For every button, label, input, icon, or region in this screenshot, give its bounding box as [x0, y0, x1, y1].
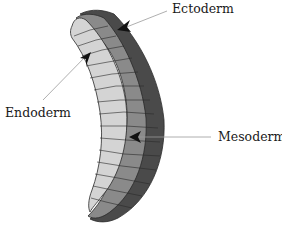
ectoderm-leader-line — [124, 11, 167, 28]
endoderm-leader-line — [43, 54, 88, 100]
endoderm-label: Endoderm — [5, 107, 71, 120]
ectoderm-label: Ectoderm — [172, 3, 234, 16]
mesoderm-label: Mesoderm — [218, 131, 282, 144]
